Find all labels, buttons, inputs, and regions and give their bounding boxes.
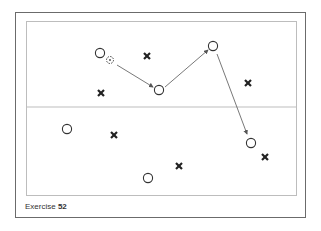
pass-arrow xyxy=(117,65,153,87)
opponent-x-icon xyxy=(176,163,182,169)
ball-icon xyxy=(107,57,114,64)
opponent-x-icon xyxy=(245,80,251,86)
caption-prefix: Exercise xyxy=(25,202,56,211)
exercise-number: 52 xyxy=(58,202,67,211)
team-players xyxy=(62,41,255,182)
pass-arrows xyxy=(117,50,247,134)
player-circle-icon xyxy=(62,124,71,133)
pass-arrow xyxy=(217,54,247,134)
pitch-drawing xyxy=(0,0,321,231)
opponent-x-icon xyxy=(98,90,104,96)
player-circle-icon xyxy=(95,48,104,57)
pass-arrow xyxy=(165,50,208,87)
opponent-x-icon xyxy=(262,154,268,160)
opposing-players xyxy=(98,53,268,169)
opponent-x-icon xyxy=(144,53,150,59)
player-circle-icon xyxy=(208,41,217,50)
player-circle-icon xyxy=(246,138,255,147)
opponent-x-icon xyxy=(111,132,117,138)
exercise-caption: Exercise 52 xyxy=(25,202,67,211)
player-circle-icon xyxy=(143,173,152,182)
player-circle-icon xyxy=(154,85,163,94)
